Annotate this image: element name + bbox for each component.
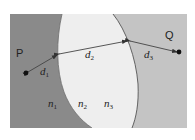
point-p-label: P [16,47,23,59]
point-q-dot [177,50,182,55]
point-p-dot [24,71,29,76]
point-q-label: Q [165,29,174,41]
refraction-diagram: P Q d1 d2 d3 n1 n2 n3 [0,0,195,140]
